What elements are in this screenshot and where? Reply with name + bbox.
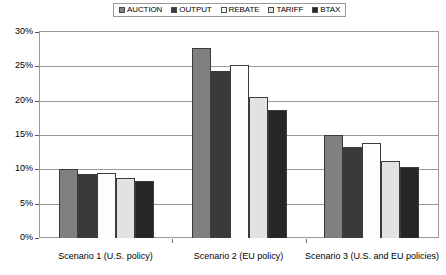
bar-tariff[interactable] bbox=[116, 178, 135, 238]
legend-swatch-icon bbox=[312, 7, 318, 13]
legend-swatch-icon bbox=[119, 7, 125, 13]
chart-legend: AUCTIONOUTPUTREBATETARIFFBTAX bbox=[113, 3, 346, 17]
legend-label: TARIFF bbox=[276, 6, 303, 14]
bar-group bbox=[40, 32, 173, 238]
bar-auction[interactable] bbox=[192, 48, 211, 238]
legend-label: BTAX bbox=[320, 6, 340, 14]
legend-item-auction[interactable]: AUCTION bbox=[119, 6, 162, 14]
y-tick-label: 10% bbox=[0, 164, 33, 173]
legend-swatch-icon bbox=[221, 7, 227, 13]
bar-output[interactable] bbox=[343, 147, 362, 238]
bar-auction[interactable] bbox=[324, 135, 343, 238]
bar-auction[interactable] bbox=[59, 169, 78, 238]
bar-groups bbox=[40, 32, 438, 238]
legend-label: AUCTION bbox=[127, 6, 162, 14]
bar-rebate[interactable] bbox=[97, 173, 116, 238]
y-axis: 0%5%10%15%20%25%30% bbox=[0, 31, 39, 239]
bar-rebate[interactable] bbox=[230, 65, 249, 238]
x-axis-separator bbox=[306, 239, 307, 243]
bar-output[interactable] bbox=[211, 71, 230, 238]
bar-tariff[interactable] bbox=[381, 161, 400, 238]
legend-label: REBATE bbox=[229, 6, 260, 14]
bar-btax[interactable] bbox=[135, 181, 154, 238]
x-axis-label: Scenario 2 (EU policy) bbox=[172, 239, 305, 269]
legend-item-tariff[interactable]: TARIFF bbox=[268, 6, 303, 14]
legend-swatch-icon bbox=[268, 7, 274, 13]
x-axis-label: Scenario 3 (U.S. and EU policies) bbox=[305, 239, 439, 269]
legend-item-btax[interactable]: BTAX bbox=[312, 6, 340, 14]
x-axis-label: Scenario 1 (U.S. policy) bbox=[39, 239, 172, 269]
y-tick-label: 20% bbox=[0, 96, 33, 105]
bar-tariff[interactable] bbox=[249, 97, 268, 238]
y-tick-label: 30% bbox=[0, 27, 33, 36]
legend-item-output[interactable]: OUTPUT bbox=[171, 6, 211, 14]
bar-btax[interactable] bbox=[400, 167, 419, 238]
legend-item-rebate[interactable]: REBATE bbox=[221, 6, 260, 14]
bar-rebate[interactable] bbox=[362, 143, 381, 238]
bar-output[interactable] bbox=[78, 174, 97, 238]
y-tick-label: 5% bbox=[0, 199, 33, 208]
legend-label: OUTPUT bbox=[179, 6, 211, 14]
bar-btax[interactable] bbox=[268, 110, 287, 238]
y-tick-label: 0% bbox=[0, 233, 33, 242]
x-axis-separator bbox=[172, 239, 173, 243]
y-tick-label: 25% bbox=[0, 61, 33, 70]
bar-group bbox=[305, 32, 438, 238]
x-axis: Scenario 1 (U.S. policy)Scenario 2 (EU p… bbox=[39, 239, 439, 269]
bar-group bbox=[173, 32, 306, 238]
legend-swatch-icon bbox=[171, 7, 177, 13]
y-tick-label: 15% bbox=[0, 130, 33, 139]
